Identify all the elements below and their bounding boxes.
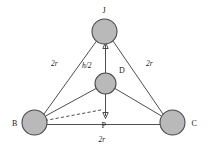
- vertex-label-c: C: [192, 119, 197, 128]
- measure-label-edge-b-c: 2r: [99, 135, 106, 144]
- measure-label-edge-b-j: 2r: [51, 59, 58, 68]
- vertex-label-j: J: [103, 6, 106, 15]
- vertex-label-p: P: [102, 121, 107, 130]
- sphere-d-center: [95, 73, 116, 94]
- diagram-canvas: J D B C P 2r 2r 2r h/2: [0, 0, 208, 147]
- edge-line-b-d: [46, 89, 97, 117]
- sphere-b-left: [22, 110, 47, 135]
- edge-line-c-j: [113, 41, 163, 114]
- sphere-c-right: [160, 110, 185, 135]
- vertex-label-b: B: [12, 119, 17, 128]
- vertex-label-d: D: [119, 66, 125, 75]
- measure-label-height-half: h/2: [82, 61, 92, 70]
- edge-line-b-j: [44, 41, 97, 114]
- tetrahedral-geometry-figure: J D B C P 2r 2r 2r h/2: [0, 0, 208, 147]
- measure-label-edge-c-j: 2r: [146, 59, 153, 68]
- sphere-j-apex: [92, 19, 117, 44]
